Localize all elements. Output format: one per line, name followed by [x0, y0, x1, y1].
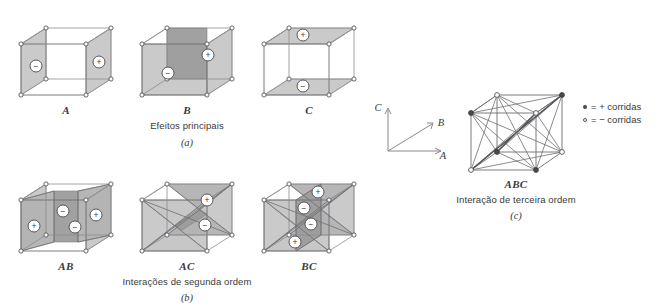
svg-text:−: −: [302, 203, 307, 213]
sign-badge-minus: −: [30, 60, 42, 72]
cube-BC: + − − +: [262, 182, 356, 253]
axes-indicator: [385, 108, 441, 154]
panel-b-letter: (b): [157, 292, 217, 303]
svg-text:+: +: [32, 221, 37, 231]
cube-A: − +: [19, 26, 113, 97]
legend-row-plus: = + corridas: [583, 100, 641, 113]
sign-badge-minus: −: [162, 67, 174, 79]
cube-AC: + −: [140, 182, 234, 253]
sign-badge-plus: +: [297, 29, 309, 41]
panel-b-caption: Interações de segunda ordem: [87, 276, 287, 287]
svg-text:−: −: [203, 220, 208, 230]
panel-a-letter: (a): [157, 137, 217, 148]
sign-badge-minus: −: [199, 219, 211, 231]
legend-label-minus: = − corridas: [591, 113, 641, 126]
panel-c-letter: (c): [486, 210, 546, 221]
sign-badge-minus: −: [298, 202, 310, 214]
sign-badge-plus: +: [312, 186, 324, 198]
axis-label-B: B: [434, 117, 448, 128]
filled-circle-icon: [583, 105, 587, 109]
cube-label-AB: AB: [41, 260, 91, 272]
cube-label-ABC: ABC: [491, 178, 541, 190]
cube-label-B: B: [162, 104, 212, 116]
svg-text:−: −: [301, 81, 306, 91]
sign-badge-minus: −: [69, 221, 81, 233]
svg-text:+: +: [316, 187, 321, 197]
cube-label-C: C: [284, 104, 334, 116]
figure-root: .edge { stroke:#6e6e73; stroke-width:0.9…: [0, 0, 664, 308]
open-circle-icon: [583, 118, 587, 122]
sign-badge-plus: +: [201, 194, 213, 206]
legend-label-plus: = + corridas: [591, 100, 641, 113]
svg-text:−: −: [166, 68, 171, 78]
svg-text:+: +: [206, 50, 211, 60]
svg-text:−: −: [73, 222, 78, 232]
legend: = + corridas = − corridas: [583, 100, 641, 126]
svg-text:+: +: [205, 195, 210, 205]
svg-text:−: −: [34, 61, 39, 71]
cube-label-BC: BC: [284, 260, 334, 272]
cube-ABC: [469, 93, 565, 173]
cube-label-A: A: [41, 104, 91, 116]
svg-text:+: +: [97, 57, 102, 67]
svg-text:−: −: [61, 206, 66, 216]
sign-badge-plus: +: [90, 209, 102, 221]
panel-c-caption: Interação de terceira ordem: [446, 194, 586, 205]
sign-badge-plus: +: [289, 236, 301, 248]
sign-badge-plus: +: [28, 220, 40, 232]
sign-badge-minus: −: [57, 205, 69, 217]
panel-a-caption: Efeitos principais: [107, 120, 267, 131]
cube-AB: + − − +: [19, 182, 113, 253]
axis-label-C: C: [371, 102, 385, 113]
sign-badge-minus: −: [305, 218, 317, 230]
svg-text:+: +: [301, 30, 306, 40]
sign-badge-plus: +: [93, 56, 105, 68]
svg-text:+: +: [293, 237, 298, 247]
sign-badge-plus: +: [202, 49, 214, 61]
svg-text:+: +: [94, 210, 99, 220]
cube-label-AC: AC: [162, 260, 212, 272]
sign-badge-minus: −: [297, 80, 309, 92]
legend-row-minus: = − corridas: [583, 113, 641, 126]
cube-C: + −: [262, 26, 356, 97]
svg-text:−: −: [309, 219, 314, 229]
cube-B: − +: [140, 26, 234, 97]
axis-label-A: A: [436, 150, 450, 161]
